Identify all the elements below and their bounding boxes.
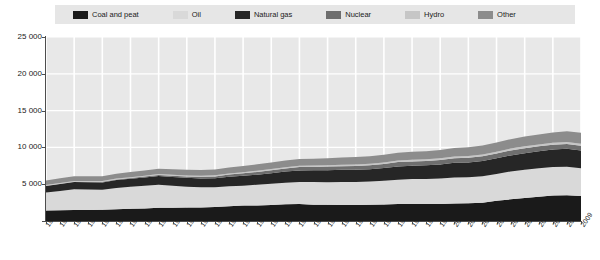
x-axis-tick-mark [497,221,498,224]
x-axis-tick-mark [426,221,427,224]
x-axis-tick-label: 1975 [100,211,115,228]
x-axis-tick-label: 1988 [283,211,298,228]
x-axis-tick-label: 2002 [480,211,495,228]
x-axis-tick-label: 1997 [410,211,425,228]
x-axis-tick-mark [454,221,455,224]
x-axis-tick-label: 1978 [143,211,158,228]
x-axis-tick-mark [102,221,103,224]
x-axis-tick-mark [539,221,540,224]
x-axis-tick-label: 1979 [157,211,172,228]
x-axis-tick-label: 1980 [171,211,186,228]
x-axis-tick-label: 2001 [466,211,481,228]
x-axis-tick-mark [159,221,160,224]
x-axis-tick-mark [581,221,582,224]
x-axis-tick-label: 2005 [523,211,538,228]
x-axis-tick-label: 1971 [44,211,59,228]
x-axis: 1971197219731974197519761977197819791980… [0,0,600,260]
x-axis-tick-mark [314,221,315,224]
x-axis-tick-label: 1989 [297,211,312,228]
x-axis-tick-mark [482,221,483,224]
x-axis-tick-mark [370,221,371,224]
x-axis-tick-mark [74,221,75,224]
x-axis-tick-label: 1999 [438,211,453,228]
x-axis-tick-mark [285,221,286,224]
x-axis-tick-label: 1993 [354,211,369,228]
x-axis-tick-mark [511,221,512,224]
x-axis-tick-mark [468,221,469,224]
x-axis-tick-label: 1973 [72,211,87,228]
x-axis-tick-label: 1995 [382,211,397,228]
x-axis-tick-mark [229,221,230,224]
x-axis-tick-mark [187,221,188,224]
x-axis-tick-mark [567,221,568,224]
x-axis-tick-mark [257,221,258,224]
x-axis-tick-label: 1972 [58,211,73,228]
x-axis-tick-label: 1998 [424,211,439,228]
x-axis-tick-label: 1974 [86,211,101,228]
x-axis-tick-label: 1990 [312,211,327,228]
x-axis-tick-mark [328,221,329,224]
x-axis-tick-label: 1987 [269,211,284,228]
x-axis-tick-mark [440,221,441,224]
x-axis-tick-label: 1982 [199,211,214,228]
x-axis-tick-mark [356,221,357,224]
x-axis-tick-label: 1991 [326,211,341,228]
x-axis-tick-mark [299,221,300,224]
x-axis-tick-mark [130,221,131,224]
x-axis-tick-mark [342,221,343,224]
x-axis-tick-label: 2009 [579,211,594,228]
x-axis-tick-mark [201,221,202,224]
x-axis-tick-label: 2000 [452,211,467,228]
x-axis-tick-label: 2004 [509,211,524,228]
x-axis-tick-mark [215,221,216,224]
x-axis-tick-label: 1976 [114,211,129,228]
x-axis-tick-label: 2007 [551,211,566,228]
x-axis-tick-label: 2006 [537,211,552,228]
x-axis-tick-label: 1985 [241,211,256,228]
x-axis-tick-mark [553,221,554,224]
x-axis-tick-mark [46,221,47,224]
x-axis-tick-label: 2003 [495,211,510,228]
x-axis-tick-mark [412,221,413,224]
x-axis-tick-mark [384,221,385,224]
x-axis-tick-label: 1994 [368,211,383,228]
x-axis-tick-label: 1984 [227,211,242,228]
x-axis-tick-mark [398,221,399,224]
x-axis-tick-mark [525,221,526,224]
x-axis-tick-label: 1983 [213,211,228,228]
x-axis-tick-label: 1977 [128,211,143,228]
x-axis-tick-label: 1992 [340,211,355,228]
x-axis-tick-mark [173,221,174,224]
x-axis-tick-label: 1981 [185,211,200,228]
x-axis-tick-label: 1996 [396,211,411,228]
x-axis-tick-label: 2008 [565,211,580,228]
x-axis-tick-mark [243,221,244,224]
x-axis-tick-label: 1986 [255,211,270,228]
x-axis-tick-mark [271,221,272,224]
x-axis-tick-mark [116,221,117,224]
chart-root: Coal and peatOilNatural gasNuclearHydroO… [0,0,600,260]
x-axis-tick-mark [60,221,61,224]
x-axis-tick-mark [145,221,146,224]
x-axis-tick-mark [88,221,89,224]
